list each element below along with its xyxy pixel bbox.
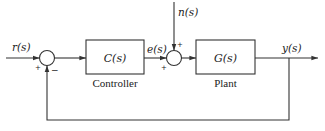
controller-tf-label: C(s) (104, 52, 127, 65)
controller-caption: Controller (92, 77, 138, 89)
sum2-left-sign: + (161, 64, 167, 72)
summing-junction-2 (167, 51, 182, 66)
plant-caption: Plant (214, 77, 237, 89)
reference-label: r(s) (12, 41, 31, 53)
plant-tf-label: G(s) (214, 52, 237, 65)
sum2-top-sign: + (177, 41, 183, 49)
block-diagram: r(s) e(s) n(s) y(s) C(s) G(s) Controller… (0, 0, 325, 131)
output-label: y(s) (281, 42, 302, 54)
summing-junction-1 (40, 51, 55, 66)
disturbance-label: n(s) (178, 6, 198, 18)
error-label: e(s) (147, 43, 167, 55)
sum1-bottom-sign: − (51, 65, 59, 75)
sum1-left-sign: + (35, 64, 41, 72)
